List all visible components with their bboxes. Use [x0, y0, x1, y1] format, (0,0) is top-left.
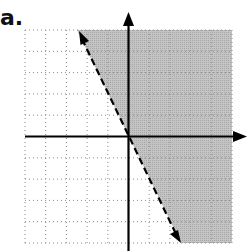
y-axis-arrow-icon — [123, 12, 134, 26]
x-axis-arrow-icon — [233, 131, 247, 142]
inequality-graph — [0, 0, 247, 251]
